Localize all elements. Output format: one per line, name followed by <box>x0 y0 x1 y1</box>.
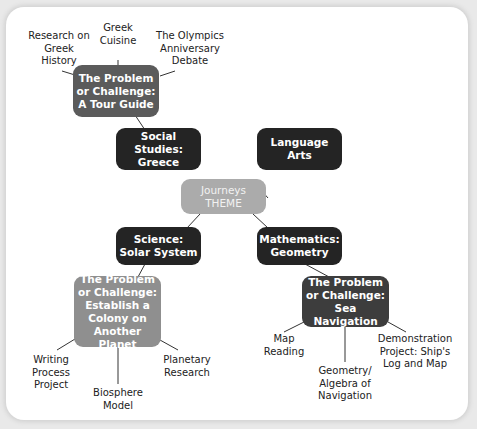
activity-greek-cuisine: Greek Cuisine <box>92 22 144 47</box>
activity-olympics-debate: The Olympics Anniversary Debate <box>152 30 228 68</box>
activity-geometry-algebra: Geometry/ Algebra of Navigation <box>314 365 376 403</box>
challenge-sea-navigation: The Problem or Challenge: Sea Navigation <box>302 276 389 327</box>
subject-language-arts: Language Arts <box>257 128 342 170</box>
activity-biosphere-model: Biosphere Model <box>88 387 148 412</box>
activity-writing-process: Writing Process Project <box>26 354 76 392</box>
challenge-colony: The Problem or Challenge: Establish a Co… <box>74 276 161 347</box>
activity-map-reading: Map Reading <box>262 333 306 358</box>
challenge-tour-guide: The Problem or Challenge: A Tour Guide <box>73 65 159 117</box>
activity-planetary-research: Planetary Research <box>162 354 212 379</box>
activity-demonstration-project: Demonstration Project: Ship's Log and Ma… <box>372 333 458 371</box>
theme-line2: THEME <box>205 197 242 210</box>
activity-research-greek-history: Research on Greek History <box>28 30 90 68</box>
subject-science: Science: Solar System <box>116 227 201 265</box>
theme-journeys: Journeys THEME <box>181 179 266 214</box>
subject-mathematics: Mathematics: Geometry <box>257 227 342 265</box>
theme-line1: Journeys <box>201 184 246 197</box>
subject-social-studies: Social Studies: Greece <box>116 128 201 170</box>
